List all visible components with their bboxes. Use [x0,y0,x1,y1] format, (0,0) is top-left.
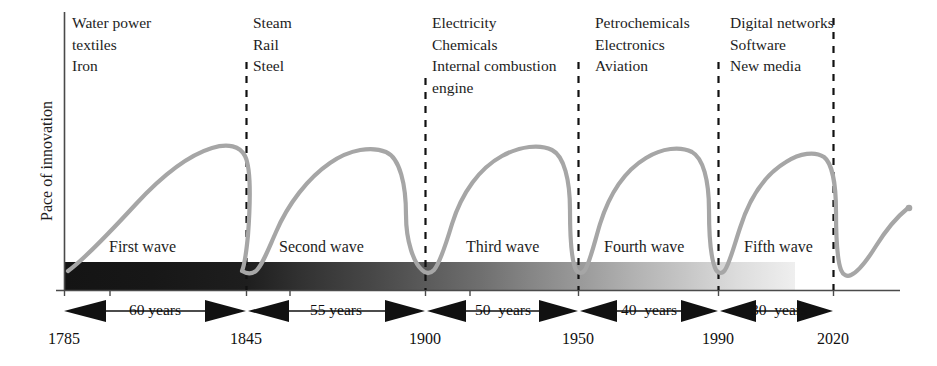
year-label-1785: 1785 [38,330,90,348]
innovation-item: Digital networks [730,12,834,34]
year-label-2020: 2020 [807,330,859,348]
innovation-item: Electronics [595,34,690,56]
innovation-item: Water power [72,12,151,34]
innovation-item: textiles [72,34,151,56]
wave-label-second: Second wave [279,238,364,256]
innovation-item: Chemicals [432,34,556,56]
wave-innovations-fifth: Digital networks Software New media [730,12,834,77]
arrow-head-1785-left [64,300,106,322]
innovation-item: Iron [72,55,151,77]
wave-innovations-first: Water power textiles Iron [72,12,151,77]
year-label-1950: 1950 [552,330,604,348]
innovation-item: New media [730,55,834,77]
kondratieff-waves-figure: Pace of innovation [0,0,937,366]
duration-label-60-years: 60 years [115,301,195,319]
arrow-head-1900-left [427,300,466,322]
year-label-1845: 1845 [220,330,272,348]
innovation-item: Aviation [595,55,690,77]
wave-innovations-second: Steam Rail Steel [253,12,292,77]
wave-label-fourth: Fourth wave [604,238,684,256]
innovation-item: Petrochemicals [595,12,690,34]
arrow-head-1845-left [248,300,289,322]
innovation-item: Steam [253,12,292,34]
year-label-1990: 1990 [692,330,744,348]
duration-label-30-years: 30 years [738,301,820,319]
innovation-item: Rail [253,34,292,56]
year-label-1900: 1900 [399,330,451,348]
innovation-item: engine [432,77,556,99]
curve-end-dot [906,205,913,212]
wave-innovations-third: Electricity Chemicals Internal combustio… [432,12,556,98]
innovation-item: Software [730,34,834,56]
innovation-wave-curve [68,146,908,276]
wave-label-fifth: Fifth wave [744,238,813,256]
arrow-head-1845-right [205,300,246,322]
innovation-item: Electricity [432,12,556,34]
arrow-head-1900-right [385,300,425,322]
wave-label-first: First wave [109,238,176,256]
duration-label-50-years: 50 years [462,301,544,319]
duration-label-40-years: 40 years [608,301,690,319]
innovation-item: Steel [253,55,292,77]
innovation-item: Internal combustion [432,55,556,77]
wave-label-third: Third wave [466,238,539,256]
arrow-head-1950-right [539,300,578,322]
wave-innovations-fourth: Petrochemicals Electronics Aviation [595,12,690,77]
innovation-intensity-bar [64,262,795,290]
duration-label-55-years: 55 years [296,301,376,319]
